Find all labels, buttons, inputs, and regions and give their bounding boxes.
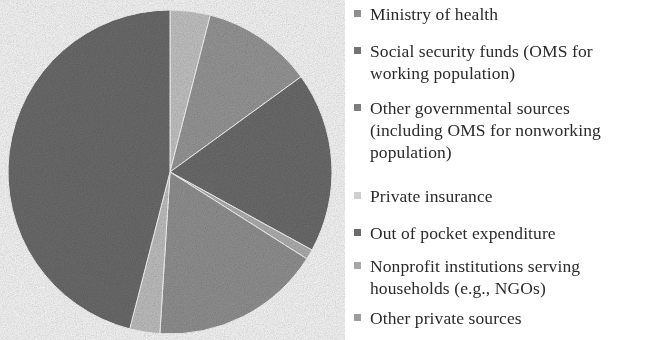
legend-item-private-insurance[interactable]: Private insurance <box>352 185 493 207</box>
legend-label-private-insurance: Private insurance <box>370 185 493 207</box>
legend-label-other-governmental-sources: Other governmental sources (including OM… <box>370 97 601 163</box>
legend-swatch-out-of-pocket-expenditure <box>354 229 361 236</box>
legend-label-nonprofit-institutions: Nonprofit institutions serving household… <box>370 255 580 299</box>
pie-chart-figure: Ministry of healthSocial security funds … <box>0 0 647 340</box>
pie-chart-svg <box>0 0 345 340</box>
legend-label-other-private-sources: Other private sources <box>370 307 522 329</box>
legend-swatch-other-private-sources <box>354 314 361 321</box>
legend-swatch-social-security-funds <box>354 47 361 54</box>
legend-item-other-private-sources[interactable]: Other private sources <box>352 307 522 329</box>
legend-item-social-security-funds[interactable]: Social security funds (OMS for working p… <box>352 40 593 84</box>
legend-label-out-of-pocket-expenditure: Out of pocket expenditure <box>370 222 556 244</box>
legend-swatch-other-governmental-sources <box>354 104 361 111</box>
legend-swatch-private-insurance <box>354 192 361 199</box>
legend-item-nonprofit-institutions[interactable]: Nonprofit institutions serving household… <box>352 255 580 299</box>
legend-item-out-of-pocket-expenditure[interactable]: Out of pocket expenditure <box>352 222 556 244</box>
legend-swatch-ministry-of-health <box>354 10 361 17</box>
chart-legend: Ministry of healthSocial security funds … <box>352 0 647 340</box>
legend-label-social-security-funds: Social security funds (OMS for working p… <box>370 40 593 84</box>
legend-item-other-governmental-sources[interactable]: Other governmental sources (including OM… <box>352 97 601 163</box>
legend-label-ministry-of-health: Ministry of health <box>370 3 498 25</box>
legend-swatch-nonprofit-institutions <box>354 262 361 269</box>
legend-item-ministry-of-health[interactable]: Ministry of health <box>352 3 498 25</box>
pie-chart-plot-area <box>0 0 345 340</box>
